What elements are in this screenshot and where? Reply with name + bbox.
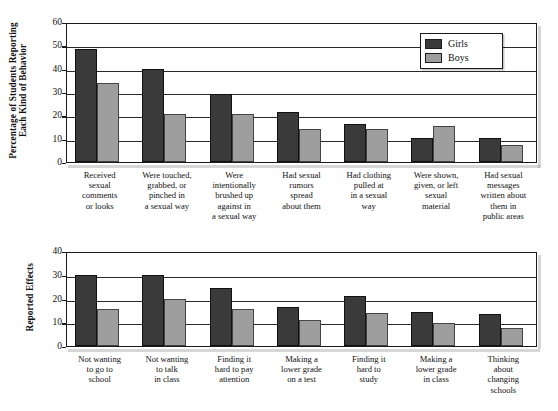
bar-girls <box>479 314 501 346</box>
bar-boys <box>501 145 523 163</box>
bar-boys <box>232 114 254 162</box>
upper-chart-y-ticks: 60 50 40 30 20 10 0 <box>36 0 62 248</box>
x-axis-label: Were touched, grabbed, or pinched in a s… <box>133 170 200 211</box>
bar-group <box>269 253 336 346</box>
bar-girls <box>411 138 433 163</box>
bar-girls <box>210 94 232 162</box>
x-axis-label: Had sexual messages written about them i… <box>470 170 537 221</box>
bar-girls <box>75 275 97 346</box>
y-tick-label: 30 <box>53 271 63 281</box>
lower-chart-plot-area <box>66 252 537 347</box>
lower-chart-panel: Reported Effects 40 30 20 10 0 <box>0 248 558 411</box>
bar-group <box>202 253 269 346</box>
bar-girls <box>142 69 164 162</box>
y-tick-label: 10 <box>53 319 63 329</box>
bar-group <box>134 24 201 162</box>
bar-girls <box>75 49 97 162</box>
bar-boys <box>97 309 119 346</box>
y-tick-label: 10 <box>53 135 63 145</box>
x-axis-label: Received sexual comments or looks <box>66 170 133 211</box>
bar-boys <box>501 328 523 346</box>
bar-girls <box>277 112 299 162</box>
upper-chart-y-axis-label: Percentage of Students ReportingEach Kin… <box>8 10 29 170</box>
bar-boys <box>232 309 254 346</box>
bar-group <box>67 253 134 346</box>
bar-girls <box>142 275 164 346</box>
bar-boys <box>366 313 388 346</box>
legend-label-girls: Girls <box>448 39 468 49</box>
bar-boys <box>164 299 186 347</box>
upper-chart-panel: Percentage of Students ReportingEach Kin… <box>0 0 558 248</box>
upper-y-label-line2: Each Kind of Behavior <box>18 44 28 137</box>
x-axis-label: Not wanting to go to school <box>66 354 133 385</box>
sexual-harassment-figure: Percentage of Students ReportingEach Kin… <box>0 0 558 411</box>
bar-girls <box>479 138 501 163</box>
lower-chart-y-axis-label: Reported Effects <box>25 247 35 347</box>
x-axis-label: Making a lower grade on a test <box>268 354 335 385</box>
bar-group <box>269 24 336 162</box>
bar-girls <box>344 296 366 346</box>
y-tick-label: 40 <box>53 65 63 75</box>
bar-girls <box>411 312 433 346</box>
bar-boys <box>299 129 321 162</box>
y-tick-label: 20 <box>53 112 63 122</box>
x-axis-label: Finding it hard to study <box>335 354 402 385</box>
bar-group <box>336 253 403 346</box>
x-axis-label: Not wanting to talk in class <box>133 354 200 385</box>
y-tick-label: 20 <box>53 295 63 305</box>
upper-chart-plot-area: Girls Boys <box>66 23 537 163</box>
legend-swatch-girls-icon <box>425 39 442 49</box>
bar-boys <box>433 126 455 162</box>
bar-boys <box>299 320 321 346</box>
bar-boys <box>97 83 119 162</box>
x-axis-label: Making a lower grade in class <box>402 354 469 385</box>
bar-girls <box>210 288 232 346</box>
bar-boys <box>366 129 388 162</box>
x-axis-label: Had clothing pulled at in a sexual way <box>335 170 402 211</box>
bar-group <box>134 253 201 346</box>
upper-y-label-line1: Percentage of Students Reporting <box>8 22 18 159</box>
x-axis-label: Were shown, given, or left sexual materi… <box>402 170 469 211</box>
bar-boys <box>164 114 186 162</box>
y-tick-label: 40 <box>53 247 63 257</box>
y-tick-label: 60 <box>53 18 63 28</box>
bar-group <box>67 24 134 162</box>
legend-entry-boys: Boys <box>425 51 497 65</box>
legend-label-boys: Boys <box>448 53 469 63</box>
y-tick-label: 30 <box>53 88 63 98</box>
bar-group <box>471 253 537 346</box>
legend-swatch-boys-icon <box>425 53 442 63</box>
bar-group <box>403 253 470 346</box>
bar-group <box>336 24 403 162</box>
legend-entry-girls: Girls <box>425 37 497 51</box>
x-axis-label: Finding it hard to pay attention <box>201 354 268 385</box>
x-axis-label: Thinking about changing schools <box>470 354 537 395</box>
chart-legend: Girls Boys <box>420 33 503 69</box>
bar-girls <box>277 307 299 346</box>
lower-chart-bars <box>67 253 536 346</box>
bar-girls <box>344 124 366 163</box>
bar-group <box>202 24 269 162</box>
upper-chart-x-labels: Received sexual comments or looks Were t… <box>66 170 537 242</box>
x-axis-label: Were intentionally brushed up against in… <box>201 170 268 221</box>
bar-boys <box>433 323 455 346</box>
x-axis-label: Had sexual rumors spread about them <box>268 170 335 211</box>
lower-chart-x-labels: Not wanting to go to school Not wanting … <box>66 354 537 410</box>
lower-chart-y-ticks: 40 30 20 10 0 <box>36 248 62 411</box>
y-tick-label: 50 <box>53 42 63 52</box>
